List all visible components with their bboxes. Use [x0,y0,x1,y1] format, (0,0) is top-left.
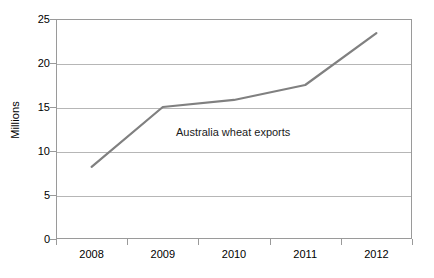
y-axis-tick-label: 5 [24,190,50,201]
x-axis-tick-mark [341,239,342,245]
y-axis-tick-mark [50,195,56,196]
y-axis-tick-label: 15 [24,102,50,113]
y-axis-tick-mark [50,63,56,64]
y-axis-tick-mark [50,19,56,20]
line-chart: Millions 0510152025 Australia wheat expo… [0,0,434,278]
x-axis-tick-label: 2011 [293,248,317,260]
y-axis-tick-label: 25 [24,14,50,25]
x-axis-tick-label: 2009 [151,248,175,260]
y-axis-tick-labels: 0510152025 [24,0,50,278]
x-axis-tick-mark [412,239,413,245]
x-axis-tick-mark [270,239,271,245]
y-axis-title: Millions [4,0,26,239]
x-axis-tick-mark [127,239,128,245]
y-axis-tick-mark [50,107,56,108]
x-axis-tick-mark [198,239,199,245]
x-axis-tick-label: 2008 [79,248,103,260]
series-annotation-label: Australia wheat exports [176,126,290,138]
y-axis-tick-label: 20 [24,58,50,69]
x-axis-tick-mark [56,239,57,245]
y-axis-tick-label: 10 [24,146,50,157]
y-axis-tick-label: 0 [24,234,50,245]
y-axis-title-label: Millions [9,101,21,138]
y-axis-tick-mark [50,151,56,152]
x-axis-tick-label: 2012 [364,248,388,260]
x-axis-tick-label: 2010 [222,248,246,260]
